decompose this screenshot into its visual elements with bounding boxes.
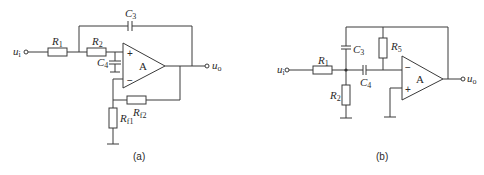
output-terminal-a xyxy=(205,64,209,68)
resistor-r5-b xyxy=(379,38,387,58)
input-terminal-b xyxy=(285,68,289,72)
input-label-b: ui xyxy=(277,63,286,77)
input-terminal-a xyxy=(24,50,28,54)
output-terminal-b xyxy=(461,77,465,81)
minus-sign-a: − xyxy=(127,75,133,86)
c4-label-b: C4 xyxy=(360,76,371,90)
opamp-label-b: A xyxy=(416,73,424,85)
c3-label-b: C3 xyxy=(353,43,364,57)
minus-sign-b: − xyxy=(405,62,411,73)
circuit-diagrams: ui R1 C3 R2 C4 + − A uo xyxy=(0,0,484,175)
rf2-label-a: Rf2 xyxy=(132,106,146,120)
caption-b: (b) xyxy=(376,151,388,162)
output-label-b: uo xyxy=(467,72,477,86)
r1-label-b: R1 xyxy=(317,54,329,68)
circuit-b: ui R1 C3 R5 C4 R2 − + xyxy=(277,27,477,162)
plus-sign-b: + xyxy=(405,84,411,95)
resistor-rf2-a xyxy=(127,96,146,104)
input-label-a: ui xyxy=(13,45,22,59)
resistor-r2-b xyxy=(342,85,350,105)
opamp-label-a: A xyxy=(139,60,147,72)
resistor-rf1-a xyxy=(109,108,117,128)
resistor-r2-a xyxy=(87,48,106,56)
resistor-r1-b xyxy=(313,66,332,74)
r2-label-a: R2 xyxy=(91,35,103,49)
rf1-label-a: Rf1 xyxy=(119,112,133,126)
r2-label-b: R2 xyxy=(329,89,341,103)
resistor-r1-a xyxy=(48,48,67,56)
caption-a: (a) xyxy=(133,151,145,162)
r5-label-b: R5 xyxy=(390,40,402,54)
circuit-a: ui R1 C3 R2 C4 + − A uo xyxy=(13,7,222,162)
r1-label-a: R1 xyxy=(51,35,63,49)
c3-label-a: C3 xyxy=(125,7,136,21)
plus-sign-a: + xyxy=(127,48,133,59)
c4-label-a: C4 xyxy=(97,56,108,70)
output-label-a: uo xyxy=(212,59,222,73)
